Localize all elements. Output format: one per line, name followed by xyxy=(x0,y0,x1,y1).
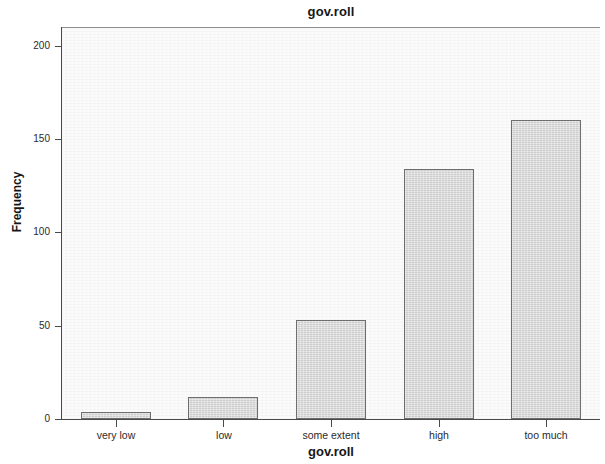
x-axis-title: gov.roll xyxy=(62,444,600,459)
histogram-chart: gov.roll Frequency gov.roll 050100150200… xyxy=(0,0,605,464)
bar xyxy=(81,412,151,419)
x-tick-label: low xyxy=(170,429,278,441)
x-tick-mark xyxy=(223,420,224,427)
y-tick-label: 150 xyxy=(0,134,50,144)
y-tick-mark xyxy=(55,232,62,233)
bar xyxy=(404,169,474,419)
x-tick-mark xyxy=(546,420,547,427)
y-axis-line xyxy=(61,27,62,420)
bar xyxy=(296,320,366,419)
bar xyxy=(188,397,258,419)
y-tick-mark xyxy=(55,139,62,140)
y-tick-mark xyxy=(55,326,62,327)
x-tick-mark xyxy=(439,420,440,427)
y-tick-label: 50 xyxy=(0,321,50,331)
x-tick-mark xyxy=(331,420,332,427)
y-tick-label: 0 xyxy=(0,414,50,424)
x-tick-mark xyxy=(116,420,117,427)
y-tick-mark xyxy=(55,419,62,420)
chart-title: gov.roll xyxy=(62,2,600,22)
x-tick-label: some extent xyxy=(277,429,385,441)
x-tick-label: very low xyxy=(62,429,170,441)
bar xyxy=(511,120,581,419)
y-tick-label: 200 xyxy=(0,41,50,51)
x-tick-label: high xyxy=(385,429,493,441)
x-tick-label: too much xyxy=(492,429,600,441)
y-tick-label: 100 xyxy=(0,227,50,237)
y-tick-mark xyxy=(55,46,62,47)
